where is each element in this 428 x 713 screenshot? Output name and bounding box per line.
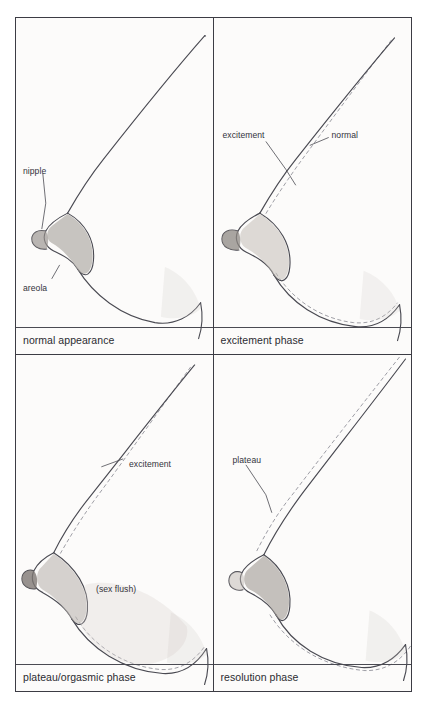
label-excitement: excitement: [223, 130, 265, 140]
body-shading: [365, 610, 405, 661]
areola-shading: [240, 214, 289, 280]
label-excitement: excitement: [129, 459, 171, 469]
caption-excitement-phase: excitement phase: [221, 333, 304, 348]
body-shading: [167, 612, 207, 663]
caption-rule: [214, 327, 412, 328]
body-shading: [359, 271, 399, 320]
label-sex-flush: (sex flush): [96, 584, 136, 594]
caption-rule: [16, 664, 213, 665]
breast-diagram-excitement: [214, 18, 412, 354]
nipple-shading: [22, 570, 37, 589]
caption-resolution-phase: resolution phase: [221, 670, 299, 685]
panel-grid: nipple areola normal appearance: [16, 18, 411, 691]
areola-leader-line: [52, 265, 60, 279]
label-plateau: plateau: [233, 455, 262, 465]
caption-rule: [214, 664, 412, 665]
breast-diagram-resolution: [214, 355, 412, 692]
areola-shading: [47, 214, 92, 274]
nipple-shading: [221, 230, 239, 250]
areola-shading: [244, 555, 289, 619]
panel-plateau-orgasmic-phase: excitement (sex flush) plateau/orgasmic …: [16, 355, 214, 692]
nipple-leader-line: [42, 173, 46, 229]
body-shading: [161, 267, 201, 318]
caption-rule: [16, 327, 213, 328]
caption-normal-appearance: normal appearance: [23, 333, 114, 348]
panel-excitement-phase: excitement normal excitement phase: [214, 18, 412, 355]
panel-normal-appearance: nipple areola normal appearance: [16, 18, 214, 355]
panel-resolution-phase: plateau resolution phase: [214, 355, 412, 692]
breast-diagram-normal: [16, 18, 213, 354]
plateau-leader-line: [245, 464, 271, 512]
nipple-shading: [32, 231, 48, 250]
caption-plateau-orgasmic-phase: plateau/orgasmic phase: [23, 670, 136, 685]
label-areola: areola: [23, 283, 47, 293]
label-normal: normal: [332, 130, 359, 140]
label-nipple: nipple: [23, 166, 46, 176]
figure-frame: nipple areola normal appearance: [15, 17, 412, 692]
breast-diagram-plateau: [16, 355, 213, 692]
